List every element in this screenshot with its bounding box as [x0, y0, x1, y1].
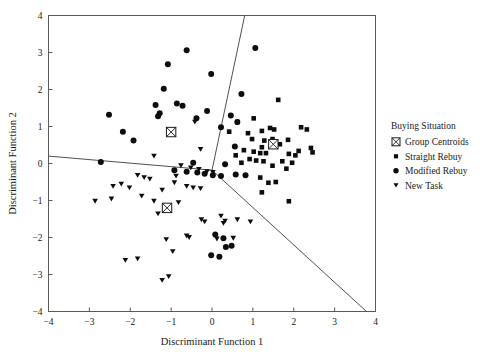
data-point-circle — [218, 124, 224, 130]
data-point-circle — [208, 71, 214, 77]
data-point-square — [254, 158, 259, 163]
data-point-circle — [180, 103, 186, 109]
scatter-plot-svg: −4−3−2−101234−4−3−2−101234 Discriminant … — [0, 0, 491, 352]
legend-item-modified-rebuy[interactable]: Modified Rebuy — [393, 166, 467, 176]
data-point-triangle-down — [184, 184, 190, 189]
x-axis-tick-label: −3 — [84, 317, 94, 327]
data-point-triangle-down — [214, 237, 220, 242]
data-point-circle — [106, 112, 112, 118]
legend-item-new-task[interactable]: New Task — [393, 181, 443, 191]
data-point-triangle-down — [176, 200, 182, 205]
data-point-circle — [220, 235, 226, 241]
data-point-circle — [233, 172, 239, 178]
legend-item-straight-rebuy[interactable]: Straight Rebuy — [394, 152, 463, 162]
data-point-circle — [228, 112, 234, 118]
legend-item-label: Modified Rebuy — [405, 166, 468, 176]
x-axis-tick-label: −2 — [125, 317, 135, 327]
y-axis-tick-label: −3 — [32, 270, 42, 280]
data-point-square — [258, 175, 263, 180]
data-point-triangle-down — [221, 221, 227, 226]
data-point-triangle-down — [202, 220, 208, 225]
data-point-triangle-down — [147, 177, 153, 182]
data-point-triangle-down — [230, 236, 236, 241]
data-point-square — [251, 149, 256, 154]
legend-marker-crossed-square-icon — [392, 138, 400, 146]
data-point-circle — [234, 119, 240, 125]
data-point-square — [260, 145, 265, 150]
legend-title: Buying Situation — [391, 121, 456, 131]
data-point-square — [296, 149, 301, 154]
data-point-circle — [184, 169, 190, 175]
data-point-square — [262, 138, 267, 143]
data-point-circle — [229, 243, 235, 249]
data-point-square — [287, 199, 292, 204]
data-point-square — [239, 160, 244, 165]
x-axis-tick-label: 1 — [251, 317, 256, 327]
x-axis-tick-label: 2 — [291, 317, 296, 327]
legend-item-label: New Task — [405, 181, 443, 191]
data-point-square — [293, 153, 298, 158]
plot-frame — [49, 16, 376, 312]
axis-layer: −4−3−2−101234−4−3−2−101234 — [32, 11, 378, 327]
data-point-square — [273, 180, 278, 185]
lower-right-boundary — [212, 170, 367, 311]
data-point-triangle-down — [159, 278, 165, 283]
data-point-square — [286, 138, 291, 143]
data-point-triangle-down — [248, 220, 254, 225]
y-axis-tick-label: 2 — [38, 85, 43, 95]
data-point-triangle-down — [155, 211, 161, 216]
data-point-triangle-down — [118, 182, 124, 187]
data-point-circle — [171, 167, 177, 173]
data-point-square — [305, 127, 310, 132]
data-point-square — [310, 150, 315, 155]
data-point-triangle-down — [123, 258, 129, 263]
group-centroids-layer — [162, 127, 278, 212]
y-axis-tick-label: −4 — [32, 307, 42, 317]
data-point-square — [246, 131, 251, 136]
data-point-square — [260, 190, 265, 195]
data-point-square — [266, 180, 271, 185]
y-axis-tick-label: 1 — [38, 122, 43, 132]
data-point-triangle-down — [198, 147, 204, 152]
data-point-square — [251, 116, 256, 121]
data-point-square — [299, 125, 304, 130]
legend: Buying SituationGroup CentroidsStraight … — [391, 121, 469, 191]
y-axis-tick-label: −2 — [32, 233, 42, 243]
data-point-square — [258, 151, 263, 156]
data-point-square — [242, 148, 247, 153]
data-point-triangle-down — [109, 197, 115, 202]
legend-marker-triangle-down-icon — [393, 183, 398, 187]
data-point-circle — [223, 244, 229, 250]
data-point-square — [290, 160, 295, 165]
data-point-square — [264, 151, 269, 156]
x-axis-tick-label: −1 — [166, 317, 176, 327]
data-point-circle — [155, 113, 161, 119]
legend-item-group-centroids[interactable]: Group Centroids — [392, 137, 469, 147]
data-point-square — [227, 129, 232, 134]
group-centroid-marker — [166, 127, 175, 136]
legend-marker-circle-icon — [393, 168, 398, 173]
legend-item-label: Group Centroids — [405, 137, 469, 147]
data-point-circle — [252, 45, 258, 51]
data-point-square — [287, 152, 292, 157]
data-point-circle — [216, 254, 222, 260]
data-point-square — [260, 129, 265, 134]
data-point-triangle-down — [190, 186, 196, 191]
data-point-triangle-down — [173, 174, 179, 179]
discriminant-scatter-figure: −4−3−2−101234−4−3−2−101234 Discriminant … — [0, 0, 491, 352]
y-axis-title: Discriminant Function 2 — [7, 112, 18, 215]
data-point-circle — [222, 161, 228, 167]
data-point-circle — [161, 86, 167, 92]
data-point-circle — [232, 143, 238, 149]
data-point-triangle-down — [135, 173, 141, 178]
left-boundary — [49, 156, 213, 170]
data-point-triangle-down — [151, 154, 157, 159]
data-point-triangle-down — [110, 184, 116, 189]
data-point-square — [268, 126, 273, 131]
data-point-square — [276, 98, 281, 103]
data-point-square — [284, 166, 289, 171]
data-point-circle — [218, 173, 224, 179]
data-point-square — [272, 127, 277, 132]
decision-boundary-layer — [49, 16, 367, 312]
y-axis-tick-label: 3 — [38, 48, 43, 58]
